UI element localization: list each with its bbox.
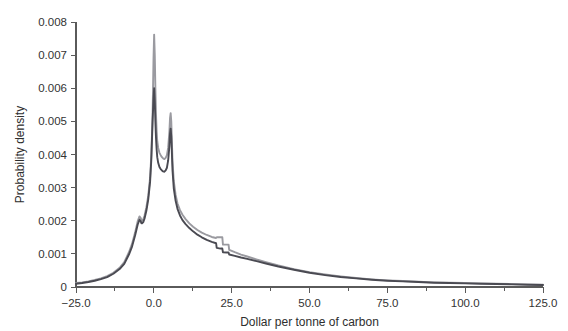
y-tick-label: 0.005 xyxy=(38,115,67,127)
x-tick-label: 25.0 xyxy=(220,297,242,309)
y-tick-label: 0.002 xyxy=(38,215,67,227)
chart-figure: 00.0010.0020.0030.0040.0050.0060.0070.00… xyxy=(0,0,568,331)
series-distribution-dark xyxy=(76,88,543,285)
data-series-group xyxy=(76,35,543,285)
probability-density-plot: 00.0010.0020.0030.0040.0050.0060.0070.00… xyxy=(0,0,568,331)
x-tick-label: 100.0 xyxy=(451,297,480,309)
x-tick-label: −25.0 xyxy=(61,297,90,309)
x-axis-title: Dollar per tonne of carbon xyxy=(240,315,379,329)
y-tick-label: 0.003 xyxy=(38,182,67,194)
x-tick-label: 50.0 xyxy=(298,297,320,309)
y-tick-label: 0.001 xyxy=(38,248,67,260)
x-axis-ticks: −25.00.025.050.075.0100.0125.0 xyxy=(61,287,557,309)
y-tick-label: 0 xyxy=(61,281,67,293)
series-distribution-light xyxy=(76,35,543,285)
y-axis-ticks: 00.0010.0020.0030.0040.0050.0060.0070.00… xyxy=(38,16,76,293)
x-tick-label: 75.0 xyxy=(376,297,398,309)
x-tick-label: 125.0 xyxy=(529,297,558,309)
y-tick-label: 0.007 xyxy=(38,49,67,61)
y-tick-label: 0.008 xyxy=(38,16,67,28)
x-tick-label: 0.0 xyxy=(146,297,162,309)
y-tick-label: 0.006 xyxy=(38,82,67,94)
y-tick-label: 0.004 xyxy=(38,149,67,161)
y-axis-title: Probability density xyxy=(13,106,27,203)
